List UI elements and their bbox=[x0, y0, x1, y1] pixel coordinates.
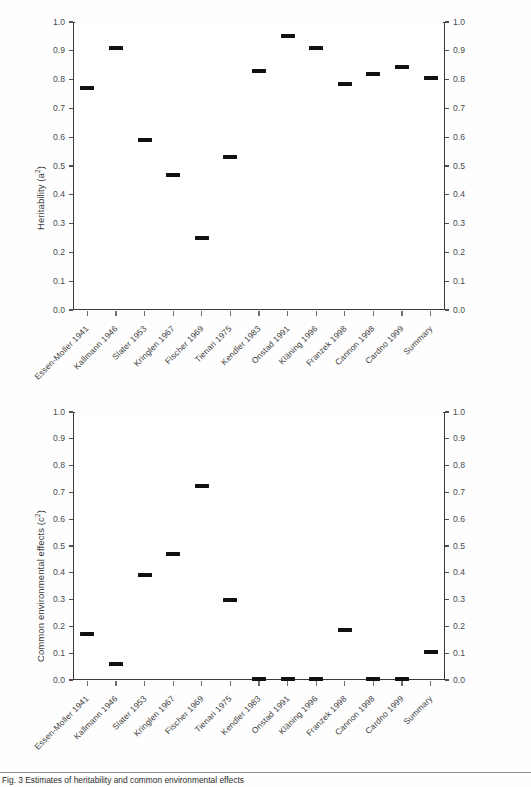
gridline-horizontal bbox=[75, 137, 443, 138]
x-tick-mark bbox=[87, 681, 88, 686]
data-point-marker bbox=[252, 69, 266, 73]
gridline-horizontal bbox=[75, 466, 443, 467]
y-tick-label-left: 0.0 bbox=[33, 306, 65, 315]
y-tick-label-right: 0.4 bbox=[453, 190, 465, 199]
y-tick-mark-left bbox=[69, 252, 73, 253]
y-tick-label-right: 0.3 bbox=[453, 595, 465, 604]
y-tick-label-left: 0.5 bbox=[33, 542, 65, 551]
gridline-horizontal bbox=[75, 224, 443, 225]
y-tick-mark-right bbox=[445, 492, 449, 493]
gridline-horizontal bbox=[75, 519, 443, 520]
y-tick-label-left: 0.3 bbox=[33, 595, 65, 604]
y-tick-label-right: 0.8 bbox=[453, 461, 465, 470]
x-tick-mark bbox=[230, 681, 231, 686]
data-point-marker bbox=[424, 76, 438, 80]
data-point-marker bbox=[338, 628, 352, 632]
gridline-horizontal bbox=[75, 573, 443, 574]
y-tick-label-left: 0.8 bbox=[33, 75, 65, 84]
data-point-marker bbox=[424, 650, 438, 654]
y-tick-label-left: 0.7 bbox=[33, 104, 65, 113]
y-tick-mark-right bbox=[445, 50, 449, 51]
y-tick-label-left: 0.9 bbox=[33, 434, 65, 443]
data-point-marker bbox=[223, 598, 237, 602]
y-tick-label-right: 0.1 bbox=[453, 277, 465, 286]
y-tick-mark-left bbox=[69, 545, 73, 546]
data-point-marker bbox=[80, 632, 94, 636]
x-tick-mark bbox=[230, 311, 231, 316]
y-tick-label-right: 1.0 bbox=[453, 408, 465, 417]
x-tick-mark bbox=[373, 681, 374, 686]
panel-common-environment: Common environmental effects (c2) 0.00.0… bbox=[0, 394, 531, 784]
y-tick-mark-right bbox=[445, 252, 449, 253]
x-tick-mark bbox=[401, 311, 402, 316]
data-point-marker bbox=[195, 484, 209, 488]
y-tick-mark-right bbox=[445, 679, 449, 680]
gridline-horizontal bbox=[75, 626, 443, 627]
data-point-marker bbox=[338, 82, 352, 86]
x-tick-mark bbox=[173, 681, 174, 686]
x-tick-mark bbox=[201, 311, 202, 316]
gridline-horizontal bbox=[75, 653, 443, 654]
y-tick-label-right: 0.0 bbox=[453, 676, 465, 685]
y-tick-label-right: 0.4 bbox=[453, 568, 465, 577]
y-axis-title-common-environment: Common environmental effects (c2) bbox=[34, 510, 46, 662]
x-tick-mark bbox=[316, 681, 317, 686]
data-point-marker bbox=[138, 573, 152, 577]
y-tick-mark-right bbox=[445, 465, 449, 466]
y-tick-mark-right bbox=[445, 281, 449, 282]
figure-two-panel-forest-plot: Heritability (a2) 0.00.00.10.10.20.20.30… bbox=[0, 0, 531, 787]
y-tick-mark-right bbox=[445, 165, 449, 166]
y-tick-mark-left bbox=[69, 223, 73, 224]
y-tick-label-right: 0.7 bbox=[453, 488, 465, 497]
x-tick-mark bbox=[430, 681, 431, 686]
y-tick-label-right: 0.9 bbox=[453, 46, 465, 55]
x-tick-mark bbox=[173, 311, 174, 316]
y-tick-label-right: 0.7 bbox=[453, 104, 465, 113]
y-tick-mark-right bbox=[445, 572, 449, 573]
y-tick-label-right: 0.6 bbox=[453, 515, 465, 524]
data-point-marker bbox=[166, 552, 180, 556]
data-point-marker bbox=[223, 155, 237, 159]
y-tick-label-left: 0.9 bbox=[33, 46, 65, 55]
y-tick-mark-right bbox=[445, 545, 449, 546]
y-tick-mark-left bbox=[69, 626, 73, 627]
y-tick-mark-right bbox=[445, 21, 449, 22]
data-point-marker bbox=[366, 72, 380, 76]
gridline-horizontal bbox=[75, 22, 443, 23]
y-tick-mark-left bbox=[69, 411, 73, 412]
y-tick-mark-right bbox=[445, 653, 449, 654]
y-tick-mark-left bbox=[69, 465, 73, 466]
x-tick-mark bbox=[344, 681, 345, 686]
data-point-marker bbox=[281, 677, 295, 681]
x-tick-mark bbox=[258, 311, 259, 316]
x-tick-mark bbox=[87, 311, 88, 316]
y-tick-mark-left bbox=[69, 492, 73, 493]
y-tick-label-left: 0.5 bbox=[33, 162, 65, 171]
data-point-marker bbox=[138, 138, 152, 142]
y-tick-label-right: 0.5 bbox=[453, 162, 465, 171]
y-tick-mark-left bbox=[69, 137, 73, 138]
data-point-marker bbox=[252, 677, 266, 681]
gridline-horizontal bbox=[75, 80, 443, 81]
y-tick-mark-left bbox=[69, 309, 73, 310]
data-point-marker bbox=[109, 662, 123, 666]
y-tick-mark-left bbox=[69, 194, 73, 195]
y-tick-label-left: 0.2 bbox=[33, 248, 65, 257]
y-tick-mark-left bbox=[69, 599, 73, 600]
y-tick-mark-left bbox=[69, 165, 73, 166]
x-tick-mark bbox=[344, 311, 345, 316]
gridline-horizontal bbox=[75, 492, 443, 493]
gridline-horizontal bbox=[75, 195, 443, 196]
gridline-horizontal bbox=[75, 412, 443, 413]
data-point-marker bbox=[80, 86, 94, 90]
data-point-marker bbox=[109, 46, 123, 50]
y-tick-label-right: 1.0 bbox=[453, 18, 465, 27]
y-tick-label-left: 0.8 bbox=[33, 461, 65, 470]
x-tick-mark bbox=[316, 311, 317, 316]
gridline-horizontal bbox=[75, 166, 443, 167]
x-tick-mark bbox=[373, 311, 374, 316]
y-tick-mark-right bbox=[445, 438, 449, 439]
y-tick-mark-left bbox=[69, 21, 73, 22]
y-tick-label-left: 1.0 bbox=[33, 408, 65, 417]
y-tick-label-left: 0.6 bbox=[33, 133, 65, 142]
